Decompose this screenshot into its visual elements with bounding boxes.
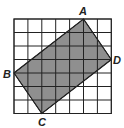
vertex-label-d: D xyxy=(113,54,121,66)
vertex-label-c: C xyxy=(38,116,47,128)
vertex-label-a: A xyxy=(78,5,87,17)
grid-diagram: A D B C xyxy=(0,0,124,128)
vertex-label-b: B xyxy=(3,68,11,80)
